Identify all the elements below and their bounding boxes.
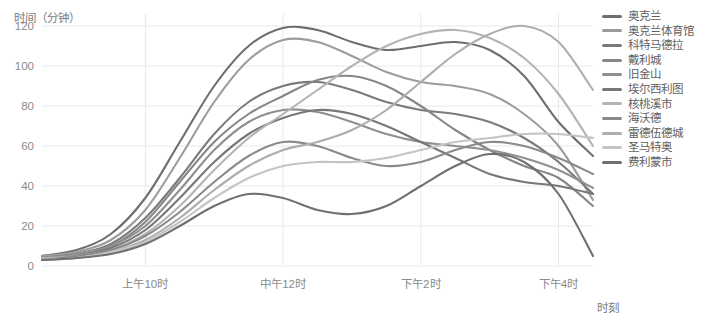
y-tick-label: 80 (21, 100, 34, 112)
legend-item-label: 戴利城 (628, 53, 661, 68)
legend-item[interactable]: 海沃德 (602, 111, 705, 126)
legend-color-swatch (602, 73, 622, 76)
legend-color-swatch (602, 59, 622, 62)
legend-item-label: 埃尔西利图 (628, 82, 683, 97)
legend-item-label: 费利蒙市 (628, 155, 672, 170)
legend-color-swatch (602, 132, 622, 135)
y-axis-title: 时间（分钟） (14, 11, 80, 24)
chart-canvas: 020406080100120 上午10时中午12时下午2时下午4时 时间（分钟… (0, 0, 705, 321)
legend-item-label: 海沃德 (628, 111, 661, 126)
x-tick-label: 下午2时 (401, 278, 441, 290)
x-tick-label: 中午12时 (260, 278, 307, 290)
legend-item[interactable]: 科特马德拉 (602, 38, 705, 53)
y-tick-label: 60 (21, 140, 34, 152)
x-tick-label: 下午4时 (539, 278, 579, 290)
legend-item[interactable]: 奥克兰体育馆 (602, 24, 705, 39)
legend-item-label: 圣马特奥 (628, 140, 672, 155)
legend-item[interactable]: 雷德伍德城 (602, 126, 705, 141)
legend-item[interactable]: 核桃溪市 (602, 97, 705, 112)
legend-color-swatch (602, 102, 622, 105)
legend-item-label: 核桃溪市 (628, 97, 672, 112)
chart-legend: 奥克兰奥克兰体育馆科特马德拉戴利城旧金山埃尔西利图核桃溪市海沃德雷德伍德城圣马特… (602, 9, 705, 170)
legend-item-label: 科特马德拉 (628, 38, 683, 53)
legend-color-swatch (602, 15, 622, 18)
x-tick-label: 上午10时 (122, 278, 169, 290)
x-axis-title: 时刻 (597, 301, 619, 314)
legend-item-label: 奥克兰 (628, 9, 661, 24)
y-tick-label: 20 (21, 220, 34, 232)
legend-item[interactable]: 戴利城 (602, 53, 705, 68)
legend-item[interactable]: 旧金山 (602, 67, 705, 82)
legend-item-label: 奥克兰体育馆 (628, 24, 694, 39)
legend-item-label: 雷德伍德城 (628, 126, 683, 141)
y-tick-label: 40 (21, 180, 34, 192)
y-tick-label: 0 (28, 260, 34, 272)
legend-item[interactable]: 埃尔西利图 (602, 82, 705, 97)
x-tick-labels: 上午10时中午12时下午2时下午4时 (122, 278, 579, 290)
legend-color-swatch (602, 29, 622, 32)
line-chart: 020406080100120 上午10时中午12时下午2时下午4时 时间（分钟… (0, 0, 705, 321)
series-lines (42, 26, 593, 260)
legend-color-swatch (602, 88, 622, 91)
x-gridlines (145, 14, 558, 266)
y-tick-label: 100 (15, 60, 34, 72)
legend-item-label: 旧金山 (628, 67, 661, 82)
legend-item[interactable]: 奥克兰 (602, 9, 705, 24)
y-tick-labels: 020406080100120 (15, 20, 34, 272)
legend-color-swatch (602, 117, 622, 120)
legend-item[interactable]: 圣马特奥 (602, 140, 705, 155)
legend-color-swatch (602, 161, 622, 164)
legend-color-swatch (602, 44, 622, 47)
legend-item[interactable]: 费利蒙市 (602, 155, 705, 170)
legend-color-swatch (602, 146, 622, 149)
